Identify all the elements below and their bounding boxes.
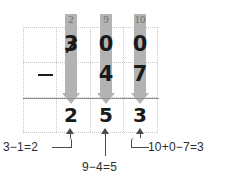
grid-vline: [123, 27, 124, 132]
minuend-digit-tens: 0: [95, 34, 117, 55]
answer-rule-line: [23, 98, 159, 99]
borrow-header-hundreds: 2: [62, 13, 80, 25]
subtraction-borrowing-diagram: 2 9 10 3 0 0 4 7 2 5 3 3−1=2 10+0−7=3 9−…: [0, 0, 233, 189]
callout-label-ones: 10+0−7=3: [148, 140, 204, 154]
grid-vline: [56, 27, 57, 132]
grid-vline: [23, 27, 24, 132]
callout-arrow-ones: [136, 128, 145, 138]
callout-label-hundreds: 3−1=2: [3, 140, 38, 154]
answer-digit-ones: 3: [129, 105, 151, 125]
subtrahend-digit-ones: 7: [129, 64, 151, 85]
subtrahend-digit-tens: 4: [95, 64, 117, 85]
borrow-arrow-hundreds: [62, 14, 80, 117]
callout-label-tens: 9−4=5: [82, 160, 117, 174]
answer-digit-hundreds: 2: [60, 105, 82, 125]
answer-digit-tens: 5: [95, 105, 117, 125]
minus-operator: [38, 74, 53, 76]
callout-arrow-hundreds: [66, 128, 75, 138]
grid-vline: [157, 27, 158, 132]
borrow-header-tens: 9: [97, 13, 115, 25]
callout-arrow-tens: [101, 128, 110, 156]
borrow-header-ones: 10: [128, 13, 152, 25]
callout-elbow-hundreds: [52, 138, 72, 148]
grid-vline: [90, 27, 91, 132]
minuend-digit-ones: 0: [129, 34, 151, 55]
callout-elbow-ones: [131, 138, 149, 148]
